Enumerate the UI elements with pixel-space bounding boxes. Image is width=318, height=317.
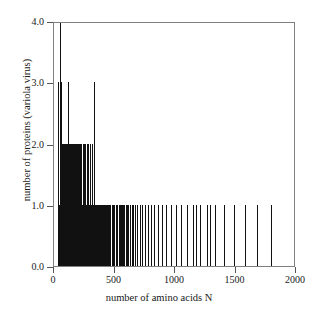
x-tick-label: 1000	[149, 275, 199, 285]
x-tick-label: 500	[89, 275, 139, 285]
bar	[215, 205, 216, 266]
bar	[200, 205, 201, 266]
bar	[224, 205, 225, 266]
bar	[135, 205, 136, 266]
chart-figure: number of amino acids N number of protei…	[0, 0, 318, 317]
x-tick-label: 1500	[210, 275, 260, 285]
y-tick-label: 3.0	[32, 78, 45, 88]
y-tick	[47, 145, 53, 146]
x-tick	[53, 267, 54, 273]
bar	[166, 205, 167, 266]
bar	[176, 205, 177, 266]
y-tick-label: 4.0	[32, 17, 45, 27]
plot-area	[54, 23, 294, 266]
bar	[145, 205, 146, 266]
bar	[196, 205, 197, 266]
x-tick	[295, 267, 296, 273]
bar	[171, 205, 172, 266]
bar	[162, 205, 163, 266]
y-tick	[47, 83, 53, 84]
y-tick-label: 2.0	[32, 140, 45, 150]
bar	[181, 205, 182, 266]
y-tick-label: 1.0	[32, 201, 45, 211]
bar	[187, 205, 188, 266]
bar	[257, 205, 258, 266]
y-tick-label: 0.0	[32, 262, 45, 272]
y-axis-title: number of proteins (variola virus)	[21, 8, 33, 253]
x-axis-title: number of amino acids N	[0, 292, 318, 304]
bar	[210, 205, 211, 266]
bar	[148, 205, 149, 266]
bar	[158, 205, 159, 266]
bar	[234, 205, 235, 266]
x-tick	[235, 267, 236, 273]
x-tick	[174, 267, 175, 273]
bar	[193, 205, 194, 266]
x-tick	[114, 267, 115, 273]
plot-frame	[53, 22, 295, 267]
bar	[142, 205, 143, 266]
bar	[137, 205, 138, 266]
bar	[140, 205, 141, 266]
bar	[207, 205, 208, 266]
x-tick-label: 2000	[270, 275, 318, 285]
x-tick-label: 0	[28, 275, 78, 285]
bar	[271, 205, 272, 266]
bar	[245, 205, 246, 266]
bar	[154, 205, 155, 266]
bar	[133, 205, 134, 266]
bar	[151, 205, 152, 266]
y-tick	[47, 206, 53, 207]
y-tick	[47, 22, 53, 23]
